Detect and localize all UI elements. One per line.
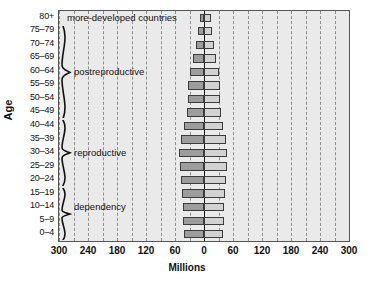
y-axis-tick-5-9: 5–9 <box>6 215 54 224</box>
y-axis-tick-60-64: 60–64 <box>6 66 54 75</box>
bar-row <box>59 230 349 238</box>
bar-female-30-34 <box>204 149 227 157</box>
bar-female-5-9 <box>204 217 224 225</box>
bar-female-10-14 <box>204 203 224 211</box>
y-axis-tick-40-44: 40–44 <box>6 120 54 129</box>
bar-female-15-19 <box>204 189 225 197</box>
bar-male-0-4 <box>184 230 204 238</box>
y-axis-tick-15-19: 15–19 <box>6 188 54 197</box>
y-axis-tick-50-54: 50–54 <box>6 93 54 102</box>
y-axis-tick-20-24: 20–24 <box>6 174 54 183</box>
y-axis-tick-70-74: 70–74 <box>6 39 54 48</box>
bar-row <box>59 122 349 130</box>
population-pyramid-figure: Age 80+75–7970–7465–6960–6455–5950–5445–… <box>0 0 374 287</box>
bar-row <box>59 162 349 170</box>
bar-female-60-64 <box>204 68 219 76</box>
annotation-dependency: dependency <box>74 201 126 212</box>
bar-male-15-19 <box>182 189 204 197</box>
bar-row <box>59 41 349 49</box>
x-axis-title: Millions <box>0 262 374 273</box>
bar-female-0-4 <box>204 230 223 238</box>
bar-row <box>59 108 349 116</box>
bracket-dependency <box>61 188 72 240</box>
bar-male-10-14 <box>183 203 204 211</box>
y-axis-tick-45-49: 45–49 <box>6 106 54 115</box>
y-axis-tick-80-: 80+ <box>6 12 54 21</box>
y-axis-tick-0-4: 0–4 <box>6 228 54 237</box>
bar-male-45-49 <box>187 108 204 116</box>
y-axis-tick-35-39: 35–39 <box>6 134 54 143</box>
bar-male-25-29 <box>180 162 204 170</box>
bracket-reproductive <box>61 120 72 186</box>
bar-female-65-69 <box>204 54 216 62</box>
bar-row <box>59 81 349 89</box>
bar-row <box>59 189 349 197</box>
bar-male-40-44 <box>184 122 204 130</box>
bar-male-50-54 <box>188 95 204 103</box>
x-axis-tick-10: 300 <box>329 245 369 256</box>
bar-male-30-34 <box>179 149 204 157</box>
bar-female-35-39 <box>204 135 226 143</box>
bar-male-35-39 <box>181 135 204 143</box>
annotation-more-developed-countries: more-developed countries <box>67 12 177 23</box>
bar-row <box>59 95 349 103</box>
bar-male-5-9 <box>183 217 204 225</box>
bar-row <box>59 135 349 143</box>
annotation-reproductive: reproductive <box>74 147 126 158</box>
bar-female-75-79 <box>204 27 212 35</box>
bar-male-65-69 <box>193 54 204 62</box>
bar-female-80- <box>204 14 211 22</box>
bar-row <box>59 27 349 35</box>
y-axis-tick-30-34: 30–34 <box>6 147 54 156</box>
bar-male-55-59 <box>188 81 204 89</box>
y-axis-tick-10-14: 10–14 <box>6 201 54 210</box>
y-axis-tick-75-79: 75–79 <box>6 25 54 34</box>
y-axis-tick-55-59: 55–59 <box>6 79 54 88</box>
y-axis-tick-25-29: 25–29 <box>6 161 54 170</box>
bar-row <box>59 176 349 184</box>
bar-female-50-54 <box>204 95 220 103</box>
bar-row <box>59 54 349 62</box>
bar-row <box>59 217 349 225</box>
bar-male-20-24 <box>181 176 204 184</box>
gridline <box>349 11 350 241</box>
bar-female-55-59 <box>204 81 220 89</box>
annotation-postreproductive: postreproductive <box>74 66 144 77</box>
bar-female-20-24 <box>204 176 226 184</box>
bracket-postreproductive <box>61 26 72 119</box>
bar-female-45-49 <box>204 108 221 116</box>
bar-female-70-74 <box>204 41 214 49</box>
bar-female-40-44 <box>204 122 223 130</box>
y-axis-tick-65-69: 65–69 <box>6 52 54 61</box>
plot-area: more-developed countriespostreproductive… <box>58 10 350 242</box>
bar-male-70-74 <box>196 41 204 49</box>
bar-male-60-64 <box>190 68 205 76</box>
bar-female-25-29 <box>204 162 227 170</box>
